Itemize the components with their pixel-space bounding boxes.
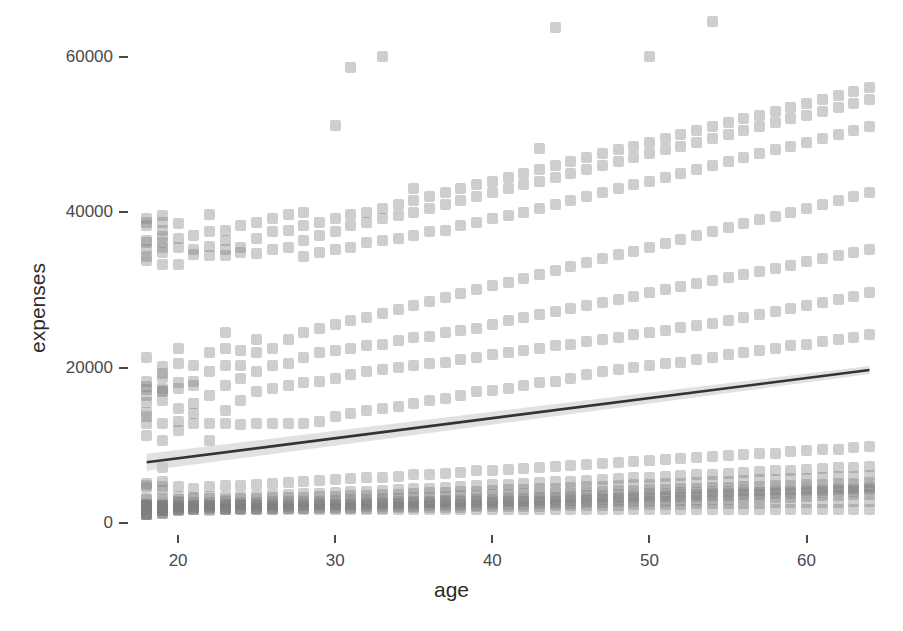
x-axis-title: age (0, 578, 903, 602)
x-tick-mark (334, 535, 336, 543)
y-tick-mark (119, 522, 128, 524)
x-tick-label: 50 (619, 551, 679, 571)
regression-line-group (131, 14, 893, 537)
x-tick-mark (491, 535, 493, 543)
x-tick-label: 60 (777, 551, 837, 571)
y-tick-mark (119, 56, 128, 58)
y-axis-title: expenses (26, 208, 50, 408)
confidence-band (147, 366, 870, 471)
plot-panel (131, 14, 893, 537)
y-tick-mark (119, 367, 128, 369)
y-tick-label: 40000 (33, 202, 113, 222)
y-tick-label: 0 (33, 513, 113, 533)
x-tick-label: 40 (462, 551, 522, 571)
y-tick-mark (119, 211, 128, 213)
x-tick-mark (806, 535, 808, 543)
x-tick-label: 20 (148, 551, 208, 571)
x-tick-mark (177, 535, 179, 543)
x-tick-label: 30 (305, 551, 365, 571)
regression-line (147, 370, 870, 462)
y-tick-label: 60000 (33, 47, 113, 67)
x-tick-mark (648, 535, 650, 543)
y-tick-label: 20000 (33, 358, 113, 378)
scatter-plot-figure: expenses age 02000040000600002030405060 (0, 0, 903, 631)
